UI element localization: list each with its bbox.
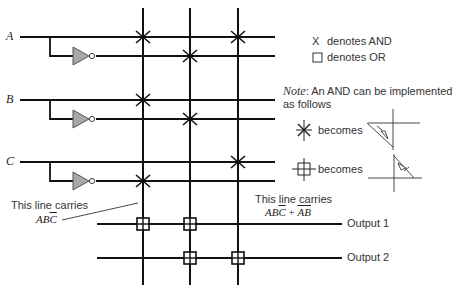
expr-c-bar: C (278, 206, 285, 218)
and-star-example-icon (296, 120, 312, 141)
note-prefix: Note (283, 84, 306, 98)
product-lines (143, 8, 238, 285)
expr-plus: + (286, 206, 298, 218)
output-1-label: Output 1 (347, 217, 389, 229)
input-label-a: A (6, 29, 13, 44)
legend-and-text: denotes AND (327, 35, 392, 47)
expr-ab: AB (36, 213, 49, 225)
or-box-icon (232, 252, 244, 264)
output-2-label: Output 2 (347, 251, 389, 263)
note-line-1: Note: An AND can be implemented (283, 84, 452, 99)
legend-and-symbol: X (312, 35, 319, 47)
or-box-icon (184, 218, 196, 230)
becomes-label-2: becomes (318, 163, 363, 175)
note-line-2: as follows (283, 98, 331, 110)
pla-diagram (0, 0, 474, 292)
or-box-icon (184, 252, 196, 264)
inverter-c-icon (73, 172, 95, 190)
diode-or-example-icon (368, 154, 422, 192)
output-lines (97, 224, 342, 258)
or-grid-example-icon (292, 158, 316, 181)
annotation-right-expr: ABC + AB (265, 206, 311, 218)
expr-c-bar: C (49, 213, 56, 225)
legend-or-symbol-icon (313, 53, 322, 62)
inverter-a-icon (73, 47, 95, 65)
annotation-left-expr: ABC (36, 213, 57, 225)
expr-ab-bar: AB (298, 206, 311, 218)
or-box-icon (137, 218, 149, 230)
input-label-b: B (6, 92, 13, 107)
annotation-right-text: This line carries (255, 193, 332, 205)
diode-and-example-icon (367, 109, 420, 150)
note-text: : An AND can be implemented (306, 85, 453, 97)
becomes-label-1: becomes (318, 124, 363, 136)
legend-or-text: denotes OR (327, 51, 386, 63)
input-label-c: C (6, 154, 14, 169)
expr-ab: AB (265, 206, 278, 218)
inverter-b-icon (73, 110, 95, 128)
annotation-left-text: This line carries (11, 199, 88, 211)
